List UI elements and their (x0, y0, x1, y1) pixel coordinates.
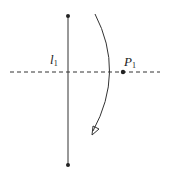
line-l1-bottom-endpoint (66, 163, 70, 167)
line-l1-top-endpoint (66, 14, 70, 18)
label-p1-subscript: 1 (132, 61, 136, 70)
label-l1: l1 (50, 52, 58, 68)
point-p1 (121, 70, 125, 74)
diagram-canvas: l1 P1 (0, 0, 169, 174)
label-p1: P1 (123, 54, 136, 70)
label-l1-subscript: 1 (54, 59, 58, 68)
label-p1-main: P (123, 54, 132, 69)
